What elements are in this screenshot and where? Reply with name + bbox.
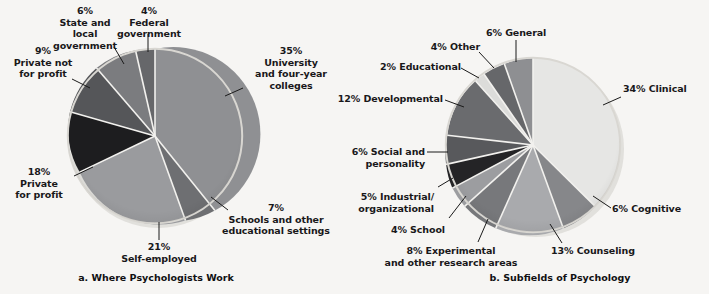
label-b-general: 6% General [486,27,596,39]
label-a-federal-government: 4% Federal government [108,5,190,40]
label-a-university: 35% University and four-year colleges [238,45,344,91]
label-b-developmental: 12% Developmental [315,93,443,105]
label-b-school: 4% School [355,224,445,236]
chart-b-slices [445,58,624,237]
label-b-counseling: 13% Counseling [551,245,671,257]
label-a-private-not-for-profit: 9% Private not for profit [4,45,82,80]
caption-chart-a: a. Where Psychologists Work [45,272,267,283]
label-a-private-for-profit: 18% Private for profit [4,166,74,201]
chart-a-slices [68,47,261,228]
label-b-experimental: 8% Experimental and other research areas [355,245,547,268]
label-b-educational: 2% Educational [348,61,461,73]
label-b-cognitive: 6% Cognitive [612,203,706,215]
label-b-other: 4% Other [385,41,480,53]
pie-charts-figure: 6% State and local government 4% Federal… [0,0,709,294]
label-b-clinical: 34% Clinical [623,83,709,95]
label-a-self-employed: 21% Self-employed [104,241,214,264]
caption-chart-b: b. Subfields of Psychology [450,272,670,283]
label-b-industrial-organizational: 5% Industrial/ organizational [330,191,434,214]
label-b-social-personality: 6% Social and personality [323,146,425,169]
